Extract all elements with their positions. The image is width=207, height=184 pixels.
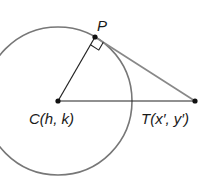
- tangent-segment-pt: [95, 37, 195, 101]
- point-t: [192, 98, 197, 103]
- radius-segment-cp: [58, 37, 95, 101]
- label-t: T(x′, y′): [141, 111, 189, 126]
- point-c: [55, 98, 60, 103]
- label-c: C(h, k): [29, 111, 74, 126]
- label-p: P: [97, 18, 107, 33]
- tangent-diagram: P C(h, k) T(x′, y′): [0, 0, 207, 184]
- right-angle-marker: [91, 42, 104, 50]
- point-p: [92, 34, 97, 39]
